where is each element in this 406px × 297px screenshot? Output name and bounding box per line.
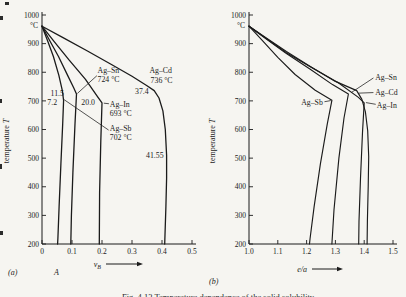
x-axis-arrowhead-icon — [337, 267, 343, 271]
annotation-ag-sb: Ag–Sb — [110, 124, 132, 133]
annotation-736-c: 736 °C — [151, 76, 173, 85]
x-tick-label: 1.5 — [388, 247, 398, 256]
x-tick-label: 0.5 — [187, 247, 197, 256]
y-tick-label: 800 — [28, 68, 40, 77]
annotation-ag-sb: Ag–Sb — [301, 98, 323, 107]
panel-a-label: (a) — [8, 268, 17, 277]
annotation-leader-line — [359, 93, 374, 94]
x-tick-label: 1.3 — [331, 247, 341, 256]
series-ag-in — [249, 26, 364, 244]
series-ag-sb — [249, 26, 332, 244]
annotation-20.0: 20.0 — [81, 98, 95, 107]
annotation-ag-in: Ag–In — [377, 101, 397, 110]
caption-fragment: Fig. 4.13 Temperature dependence of the … — [122, 292, 398, 297]
scan-artifact — [0, 99, 2, 103]
annotation-leader-line — [324, 101, 330, 102]
annotation-ag-sn: Ag–Sn — [375, 73, 397, 82]
y-tick-label: 1000 — [24, 11, 39, 20]
chart-a: 1000900800700600500400300200°C00.10.20.3… — [2, 11, 197, 270]
annotation-7.2: 7.2 — [47, 98, 57, 107]
y-tick-label: 1000 — [231, 11, 246, 20]
y-tick-label: 300 — [28, 211, 40, 220]
x-tick-label: 1.0 — [244, 247, 254, 256]
chart-b: 1000900800700600500400300200°C1.01.11.21… — [208, 11, 398, 274]
x-axis-label: e/a — [297, 265, 307, 274]
y-unit-label: °C — [237, 21, 245, 30]
x-tick-label: 0.3 — [127, 247, 137, 256]
y-tick-label: 900 — [235, 39, 247, 48]
annotation-leader-line — [366, 103, 376, 105]
annotation-11.5: 11.5 — [51, 89, 64, 98]
series-ag-cd — [249, 26, 369, 244]
annotation-41.55: 41.55 — [146, 151, 164, 160]
component-a-label: A — [54, 268, 59, 277]
y-tick-label: 300 — [235, 211, 247, 220]
x-tick-label: 0.2 — [97, 247, 107, 256]
y-tick-label: 400 — [235, 182, 247, 191]
y-tick-label: 400 — [28, 182, 40, 191]
scan-artifact — [0, 231, 3, 235]
annotation-ag-cd: Ag–Cd — [149, 66, 172, 75]
annotation-693-c: 693 °C — [110, 109, 132, 118]
x-tick-label: 0.1 — [67, 247, 77, 256]
x-tick-label: 0 — [40, 247, 44, 256]
y-tick-label: 500 — [28, 154, 40, 163]
y-tick-label: 700 — [28, 97, 40, 106]
axes-b — [249, 12, 397, 244]
scan-artifact — [0, 16, 3, 20]
annotation-ag-cd: Ag–Cd — [375, 88, 398, 97]
x-tick-label: 0.4 — [157, 247, 167, 256]
scan-artifact — [0, 164, 2, 169]
annotation-leader-line — [104, 103, 109, 104]
y-tick-label: 200 — [28, 240, 40, 249]
x-tick-label: 1.1 — [273, 247, 283, 256]
annotation-ag-in: Ag–In — [110, 100, 130, 109]
y-tick-label: 800 — [235, 68, 247, 77]
x-axis-label: vB — [94, 260, 102, 270]
x-tick-label: 1.2 — [302, 247, 312, 256]
annotation-37.4: 37.4 — [135, 87, 149, 96]
y-axis-label: temperature T — [2, 118, 11, 163]
y-tick-label: 600 — [28, 125, 40, 134]
scan-artifact — [5, 2, 9, 5]
y-tick-label: 700 — [235, 97, 247, 106]
y-tick-label: 500 — [235, 154, 247, 163]
x-tick-label: 1.4 — [360, 247, 370, 256]
annotation-724-c: 724 °C — [98, 75, 120, 84]
annotation-leader-line — [351, 78, 373, 93]
series-ag-cd — [42, 26, 167, 244]
y-unit-label: °C — [30, 21, 38, 30]
figure-4-13: 1000900800700600500400300200°C00.10.20.3… — [0, 0, 406, 297]
y-axis-label: temperature T — [208, 118, 217, 163]
annotation-702-c: 702 °C — [110, 133, 132, 142]
solubility-charts-svg: 1000900800700600500400300200°C00.10.20.3… — [0, 0, 406, 297]
y-tick-label: 900 — [28, 39, 40, 48]
y-tick-label: 600 — [235, 125, 247, 134]
panel-b-label: (b) — [209, 277, 218, 286]
x-axis-arrowhead-icon — [137, 262, 143, 266]
